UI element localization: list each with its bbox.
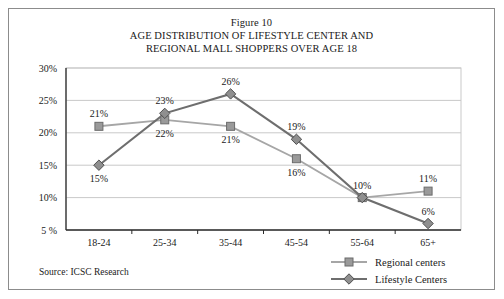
data-point-label: 23% xyxy=(156,95,174,106)
data-point-marker-square xyxy=(345,258,353,266)
data-point-label: 15% xyxy=(90,173,108,184)
data-point-label: 10% xyxy=(353,180,371,191)
line-chart: 30%25%20%15%10%5 %18-2425-3435-4445-5455… xyxy=(9,9,496,291)
data-point-label: 21% xyxy=(90,108,108,119)
series-line xyxy=(99,94,428,224)
legend-label: Lifestyle Centers xyxy=(375,274,447,285)
data-point-marker-square xyxy=(424,187,432,195)
data-point-label: 16% xyxy=(287,167,305,178)
data-point-marker-diamond xyxy=(344,274,354,284)
data-point-label: 26% xyxy=(221,76,239,87)
y-axis-tick-label: 5 % xyxy=(41,225,57,236)
data-point-marker-square xyxy=(95,122,103,130)
x-axis-category-label: 65+ xyxy=(420,237,436,248)
x-axis-category-label: 35-44 xyxy=(219,237,242,248)
data-point-marker-square xyxy=(227,122,235,130)
x-axis-category-label: 18-24 xyxy=(87,237,110,248)
y-axis-tick-label: 30% xyxy=(39,63,57,74)
x-axis-category-label: 55-64 xyxy=(351,237,374,248)
data-point-label: 6% xyxy=(421,206,434,217)
figure-frame: Figure 10 AGE DISTRIBUTION OF LIFESTYLE … xyxy=(8,8,495,290)
y-axis-tick-label: 10% xyxy=(39,192,57,203)
source-note: Source: ICSC Research xyxy=(39,267,129,277)
series-line xyxy=(99,120,428,198)
data-point-marker-square xyxy=(292,155,300,163)
y-axis-tick-label: 20% xyxy=(39,127,57,138)
data-point-label: 21% xyxy=(221,134,239,145)
x-axis-category-label: 45-54 xyxy=(285,237,308,248)
data-point-label: 22% xyxy=(156,128,174,139)
data-point-label: 19% xyxy=(287,121,305,132)
y-axis-tick-label: 15% xyxy=(39,160,57,171)
y-axis-tick-label: 25% xyxy=(39,95,57,106)
legend-label: Regional centers xyxy=(375,257,445,268)
plot-area-border xyxy=(66,68,461,230)
data-point-marker-diamond xyxy=(423,218,433,228)
data-point-label: 11% xyxy=(419,173,437,184)
x-axis-category-label: 25-34 xyxy=(153,237,176,248)
